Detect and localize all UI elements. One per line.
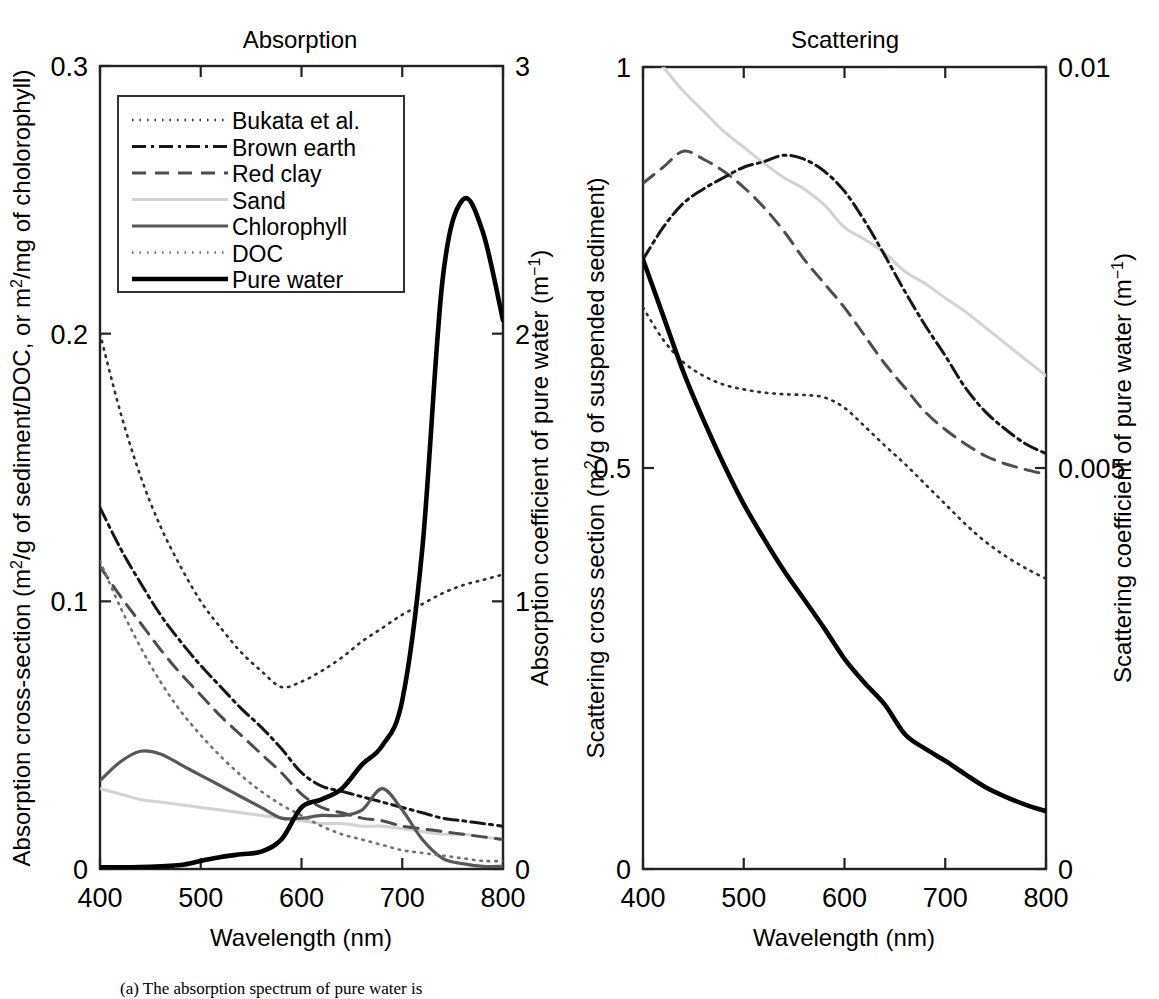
y-tick-label-right: 0	[1058, 855, 1073, 885]
series-line-red-clay	[100, 567, 503, 840]
y-tick-label-right: 0	[515, 855, 530, 885]
x-tick-label: 700	[380, 883, 425, 913]
panel-b-title: Scattering	[791, 26, 899, 53]
legend-label-sand: Sand	[232, 188, 286, 214]
x-tick-label: 400	[620, 883, 665, 913]
legend-label-doc: DOC	[232, 241, 283, 267]
series-line-pure-water	[100, 198, 503, 867]
y-tick-label-right: 0.01	[1058, 53, 1111, 83]
series-line-bukata-et-al	[643, 308, 1046, 579]
series-line-sand	[643, 43, 1046, 376]
panel-a-ylabel-right: Absorption coefficient of pure water (m−…	[526, 250, 554, 687]
panel-a-ylabel-left: Absorption cross-section (m2/g of sedime…	[8, 70, 36, 867]
panel-b-xlabel: Wavelength (nm)	[753, 924, 935, 951]
x-tick-label: 800	[480, 883, 525, 913]
y-tick-label-left: 0.3	[50, 52, 88, 82]
series-line-red-clay	[643, 151, 1046, 474]
y-tick-label-left: 0.2	[50, 320, 88, 350]
y-tick-label-left: 0	[616, 855, 631, 885]
x-tick-label: 600	[822, 883, 867, 913]
x-tick-label: 500	[721, 883, 766, 913]
series-line-brown-earth	[100, 508, 503, 827]
legend-label-pure-water: Pure water	[232, 267, 344, 293]
x-tick-label: 400	[77, 883, 122, 913]
figure-caption: (a) The absorption spectrum of pure wate…	[120, 978, 1150, 999]
y-tick-label-left: 1	[616, 53, 631, 83]
series-line-pure-water	[643, 259, 1046, 811]
figure-svg: Absorption 40050060070080000.10.20.30123…	[0, 0, 1159, 960]
panel-a-curves	[100, 198, 503, 867]
x-tick-label: 700	[923, 883, 968, 913]
panel-b-ylabel-right: Scattering coefficient of pure water (m−…	[1109, 253, 1137, 683]
figure-container: Absorption 40050060070080000.10.20.30123…	[0, 0, 1159, 999]
x-tick-label: 500	[178, 883, 223, 913]
x-tick-label: 600	[279, 883, 324, 913]
legend-label-bukata-et-al: Bukata et al.	[232, 108, 360, 134]
panel-b-axis-titles: Scattering cross section (m2/g of suspen…	[582, 177, 1137, 758]
panel-scattering: Scattering 40050060070080000.5100.0050.0…	[593, 26, 1125, 960]
legend-label-red-clay: Red clay	[232, 161, 322, 187]
series-line-bukata-et-al	[100, 334, 503, 688]
y-tick-label-right: 3	[515, 52, 530, 82]
panel-a-xlabel: Wavelength (nm)	[210, 924, 392, 951]
legend: Bukata et al.Brown earthRed claySandChlo…	[118, 96, 404, 293]
y-tick-label-left: 0	[73, 855, 88, 885]
series-line-doc	[100, 561, 503, 861]
panel-b-curves	[643, 43, 1046, 811]
panel-a-title: Absorption	[243, 26, 358, 53]
legend-label-brown-earth: Brown earth	[232, 135, 356, 161]
x-tick-label: 800	[1023, 883, 1068, 913]
legend-label-chlorophyll: Chlorophyll	[232, 214, 347, 240]
y-tick-label-left: 0.1	[50, 587, 88, 617]
